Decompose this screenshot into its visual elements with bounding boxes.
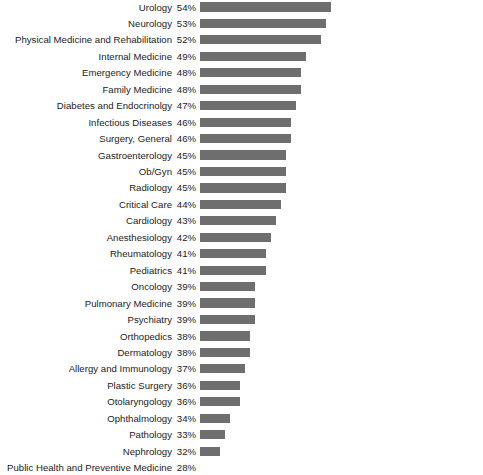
category-label: Family Medicine (0, 84, 172, 95)
category-label: Psychiatry (0, 314, 172, 325)
bar (200, 430, 225, 439)
value-label: 46% (172, 117, 200, 128)
value-label: 48% (172, 67, 200, 78)
category-label: Pulmonary Medicine (0, 298, 172, 309)
bar-row: Gastroenterology45% (0, 147, 483, 163)
category-label: Nephrology (0, 446, 172, 457)
category-label: Rheumatology (0, 248, 172, 259)
bar-row: Dermatology38% (0, 344, 483, 360)
bar (200, 414, 230, 423)
category-label: Surgery, General (0, 133, 172, 144)
value-label: 54% (172, 2, 200, 13)
bar-track (200, 328, 483, 344)
bar-row: Orthopedics38% (0, 328, 483, 344)
bar (200, 315, 255, 324)
category-label: Infectious Diseases (0, 117, 172, 128)
bar (200, 35, 321, 44)
bar (200, 134, 291, 143)
category-label: Critical Care (0, 199, 172, 210)
bar (200, 249, 266, 258)
bar (200, 233, 271, 242)
bar-row: Nephrology32% (0, 443, 483, 459)
bar-track (200, 48, 483, 64)
bar-track (200, 344, 483, 360)
category-label: Anesthesiology (0, 232, 172, 243)
value-label: 36% (172, 380, 200, 391)
value-label: 28% (172, 462, 200, 473)
bar-track (200, 196, 483, 212)
value-label: 41% (172, 265, 200, 276)
category-label: Ob/Gyn (0, 166, 172, 177)
bar (200, 397, 240, 406)
category-label: Internal Medicine (0, 51, 172, 62)
category-label: Diabetes and Endocrinolgy (0, 100, 172, 111)
bar (200, 216, 276, 225)
bar-row: Oncology39% (0, 278, 483, 294)
bar-track (200, 311, 483, 327)
category-label: Orthopedics (0, 331, 172, 342)
bar-track (200, 65, 483, 81)
bar-track (200, 459, 483, 475)
bar-track (200, 262, 483, 278)
value-label: 34% (172, 413, 200, 424)
bar (200, 381, 240, 390)
bar-row: Ophthalmology34% (0, 410, 483, 426)
category-label: Allergy and Immunology (0, 363, 172, 374)
bar (200, 447, 220, 456)
value-label: 48% (172, 84, 200, 95)
category-label: Cardiology (0, 215, 172, 226)
bar (200, 348, 250, 357)
bar-row: Plastic Surgery36% (0, 377, 483, 393)
bar-row: Pulmonary Medicine39% (0, 295, 483, 311)
category-label: Pathology (0, 429, 172, 440)
bar-track (200, 98, 483, 114)
bar-track (200, 81, 483, 97)
value-label: 32% (172, 446, 200, 457)
bar (200, 52, 306, 61)
value-label: 33% (172, 429, 200, 440)
value-label: 43% (172, 215, 200, 226)
bar-row: Family Medicine48% (0, 81, 483, 97)
bar-row: Allergy and Immunology37% (0, 361, 483, 377)
bar (200, 2, 331, 11)
bar-track (200, 229, 483, 245)
bar-track (200, 130, 483, 146)
bar-track (200, 15, 483, 31)
bar-row: Infectious Diseases46% (0, 114, 483, 130)
bar-row: Psychiatry39% (0, 311, 483, 327)
bar-row: Surgery, General46% (0, 130, 483, 146)
bar (200, 364, 245, 373)
value-label: 39% (172, 281, 200, 292)
bar-row: Radiology45% (0, 180, 483, 196)
category-label: Gastroenterology (0, 150, 172, 161)
bar-track (200, 427, 483, 443)
bar-track (200, 213, 483, 229)
bar-row: Pediatrics41% (0, 262, 483, 278)
bar-row: Emergency Medicine48% (0, 65, 483, 81)
bar-row: Critical Care44% (0, 196, 483, 212)
value-label: 52% (172, 34, 200, 45)
category-label: Plastic Surgery (0, 380, 172, 391)
bar-row: Otolaryngology36% (0, 394, 483, 410)
category-label: Radiology (0, 182, 172, 193)
bar-row: Internal Medicine49% (0, 48, 483, 64)
category-label: Ophthalmology (0, 413, 172, 424)
category-label: Urology (0, 2, 172, 13)
bar-track (200, 377, 483, 393)
value-label: 53% (172, 18, 200, 29)
bar-row: Physical Medicine and Rehabilitation52% (0, 32, 483, 48)
category-label: Emergency Medicine (0, 67, 172, 78)
bar (200, 266, 266, 275)
bar-track (200, 278, 483, 294)
value-label: 38% (172, 347, 200, 358)
bar-track (200, 180, 483, 196)
bar (200, 183, 286, 192)
value-label: 46% (172, 133, 200, 144)
category-label: Physical Medicine and Rehabilitation (0, 34, 172, 45)
category-label: Otolaryngology (0, 396, 172, 407)
bar-track (200, 246, 483, 262)
bar-track (200, 147, 483, 163)
category-label: Oncology (0, 281, 172, 292)
bar (200, 101, 296, 110)
